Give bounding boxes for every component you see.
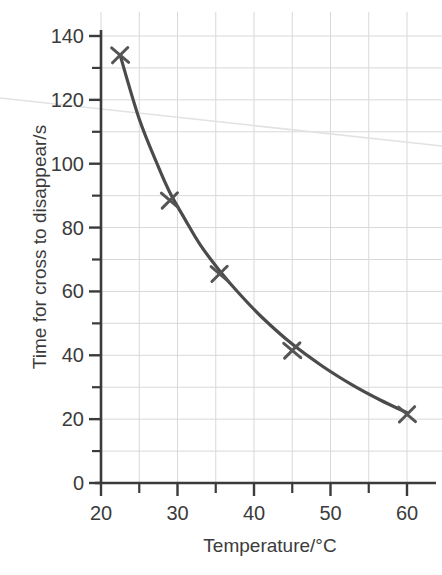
line-chart: 0204060801001201402030405060 Temperature… (0, 0, 442, 575)
x-axis-title: Temperature/°C (203, 535, 336, 556)
x-tick-label: 30 (166, 502, 188, 524)
y-tick-label: 60 (62, 280, 84, 302)
y-tick-label: 140 (51, 25, 84, 47)
y-tick-label: 0 (73, 472, 84, 494)
y-tick-label: 80 (62, 217, 84, 239)
y-tick-label: 100 (51, 153, 84, 175)
y-tick-label: 40 (62, 344, 84, 366)
chart-figure: 0204060801001201402030405060 Temperature… (0, 0, 442, 575)
x-tick-label: 50 (319, 502, 341, 524)
y-tick-label: 120 (51, 89, 84, 111)
x-tick-label: 20 (90, 502, 112, 524)
x-tick-label: 60 (396, 502, 418, 524)
y-tick-label: 20 (62, 408, 84, 430)
y-axis-title: Time for cross to disappear/s (29, 125, 50, 369)
x-tick-label: 40 (243, 502, 265, 524)
